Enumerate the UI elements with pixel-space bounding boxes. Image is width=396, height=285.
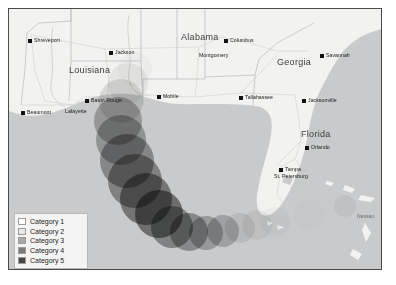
legend-swatch-category-1 [18, 218, 26, 225]
legend-item[interactable]: Category 3 [18, 236, 83, 246]
screenshot-root: ShreveportJacksonColumbusMontgomerySavan… [0, 0, 396, 285]
category-legend[interactable]: Category 1 Category 2 Category 3 Categor… [14, 213, 88, 269]
water-label: Nassau [357, 213, 374, 219]
legend-item[interactable]: Category 1 [18, 217, 83, 227]
legend-swatch-category-4 [18, 247, 26, 254]
legend-item[interactable]: Category 2 [18, 227, 83, 237]
legend-label-category-1: Category 1 [30, 218, 64, 225]
legend-swatch-category-2 [18, 228, 26, 235]
legend-label-category-4: Category 4 [30, 247, 64, 254]
legend-label-category-5: Category 5 [30, 257, 64, 264]
legend-swatch-category-3 [18, 237, 26, 244]
legend-item[interactable]: Category 5 [18, 255, 83, 265]
legend-label-category-2: Category 2 [30, 228, 64, 235]
legend-swatch-category-5 [18, 257, 26, 264]
legend-item[interactable]: Category 4 [18, 246, 83, 256]
legend-label-category-3: Category 3 [30, 237, 64, 244]
